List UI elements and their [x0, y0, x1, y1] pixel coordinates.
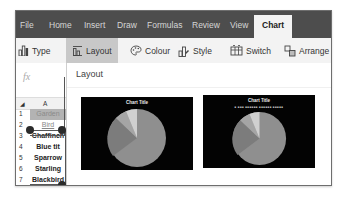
- row-number[interactable]: 1: [19, 110, 23, 117]
- selection-handle-top-left[interactable]: [26, 126, 34, 134]
- row-number[interactable]: 2: [19, 121, 23, 128]
- switch-label: Switch: [246, 46, 271, 56]
- chart-title: Chart Title: [81, 100, 193, 105]
- type-label: Type: [32, 46, 50, 56]
- tab-review[interactable]: Review: [192, 20, 220, 30]
- tab-home[interactable]: Home: [49, 20, 72, 30]
- chart-legend: ■ ■■■ ■■■■■■ ■■■■■■ ■■■■■: [203, 105, 315, 109]
- pie-chart-icon: [232, 111, 287, 166]
- row-number[interactable]: 6: [19, 165, 23, 172]
- row-number[interactable]: 5: [19, 154, 23, 161]
- selection-range[interactable]: [30, 130, 66, 185]
- selection-handle-bottom-right[interactable]: [58, 181, 66, 186]
- tab-file[interactable]: File: [20, 20, 34, 30]
- style-icon: [178, 45, 190, 57]
- chart-type-icon: [18, 45, 29, 56]
- chart-ribbon: Type Layout Colour Style Switch Arrange: [16, 38, 331, 64]
- type-button[interactable]: Type: [18, 38, 50, 63]
- excel-window: File Home Insert Draw Formulas Review Vi…: [15, 10, 332, 186]
- row-number[interactable]: 3: [19, 132, 23, 139]
- pie-chart-icon: [107, 108, 167, 168]
- row-number[interactable]: 4: [19, 143, 23, 150]
- style-label: Style: [193, 46, 212, 56]
- arrange-button[interactable]: Arrange: [284, 38, 329, 63]
- layout-button[interactable]: Layout: [66, 38, 118, 63]
- ribbon-tab-bar: File Home Insert Draw Formulas Review Vi…: [16, 11, 331, 38]
- chart-title: Chart Title: [203, 98, 315, 103]
- tab-chart[interactable]: Chart: [254, 15, 292, 38]
- select-all-corner[interactable]: ◢: [20, 100, 25, 107]
- layout-panel-title: Layout: [76, 69, 103, 79]
- layout-icon: [72, 45, 83, 56]
- colour-label: Colour: [145, 46, 170, 56]
- tab-insert[interactable]: Insert: [84, 20, 105, 30]
- worksheet-area: fx ◢ A 1 Garden 2 Bird 3 Chaffinch 4 Blu…: [16, 63, 67, 185]
- switch-icon: [230, 45, 243, 56]
- arrange-label: Arrange: [299, 46, 329, 56]
- palette-icon: [130, 45, 142, 56]
- row-number[interactable]: 7: [19, 176, 23, 183]
- tab-draw[interactable]: Draw: [117, 20, 137, 30]
- tab-view[interactable]: View: [230, 20, 248, 30]
- style-button[interactable]: Style: [178, 38, 212, 63]
- layout-option-2[interactable]: Chart Title ■ ■■■ ■■■■■■ ■■■■■■ ■■■■■: [203, 95, 315, 168]
- layout-label: Layout: [86, 46, 112, 56]
- tab-formulas[interactable]: Formulas: [147, 20, 182, 30]
- selection-handle-top-right[interactable]: [58, 126, 66, 134]
- switch-button[interactable]: Switch: [230, 38, 271, 63]
- colour-button[interactable]: Colour: [130, 38, 170, 63]
- divider: [67, 87, 331, 88]
- layout-option-1[interactable]: Chart Title: [81, 97, 193, 170]
- layout-panel: Layout Chart Title Chart Title ■ ■■■ ■■■…: [67, 63, 331, 185]
- arrange-icon: [284, 45, 296, 57]
